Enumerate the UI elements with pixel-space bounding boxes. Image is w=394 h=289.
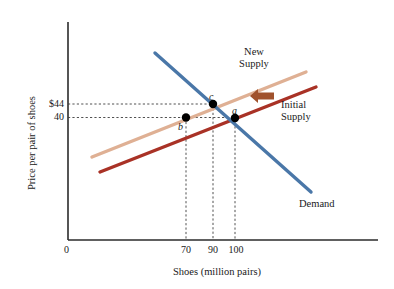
new-supply-label-line2: Supply — [226, 58, 282, 70]
initial-supply-label-line2: Supply — [281, 111, 337, 123]
x-tick-label-70: 70 — [174, 244, 198, 255]
origin-label: 0 — [64, 244, 69, 255]
demand-label: Demand — [299, 198, 359, 210]
new-supply-label: New Supply — [226, 46, 282, 70]
initial-supply-label: Initial Supply — [281, 99, 337, 123]
point-b-label: b — [178, 121, 183, 132]
new-supply-curve — [92, 72, 306, 157]
guide-lines-group — [68, 104, 235, 240]
point-a-label: a — [232, 105, 237, 116]
new-supply-label-line1: New — [226, 46, 282, 58]
initial-supply-label-line1: Initial — [281, 99, 337, 111]
x-tick-label-100: 100 — [223, 244, 249, 255]
x-tick-label-90: 90 — [201, 244, 225, 255]
point-b-marker — [182, 113, 190, 121]
point-c-label: c — [209, 91, 213, 102]
supply-demand-chart: $44 40 70 90 100 0 Shoes (million pairs)… — [0, 0, 394, 289]
x-axis-title: Shoes (million pairs) — [137, 266, 297, 278]
y-axis-title: Price per pair of shoes — [26, 96, 38, 190]
